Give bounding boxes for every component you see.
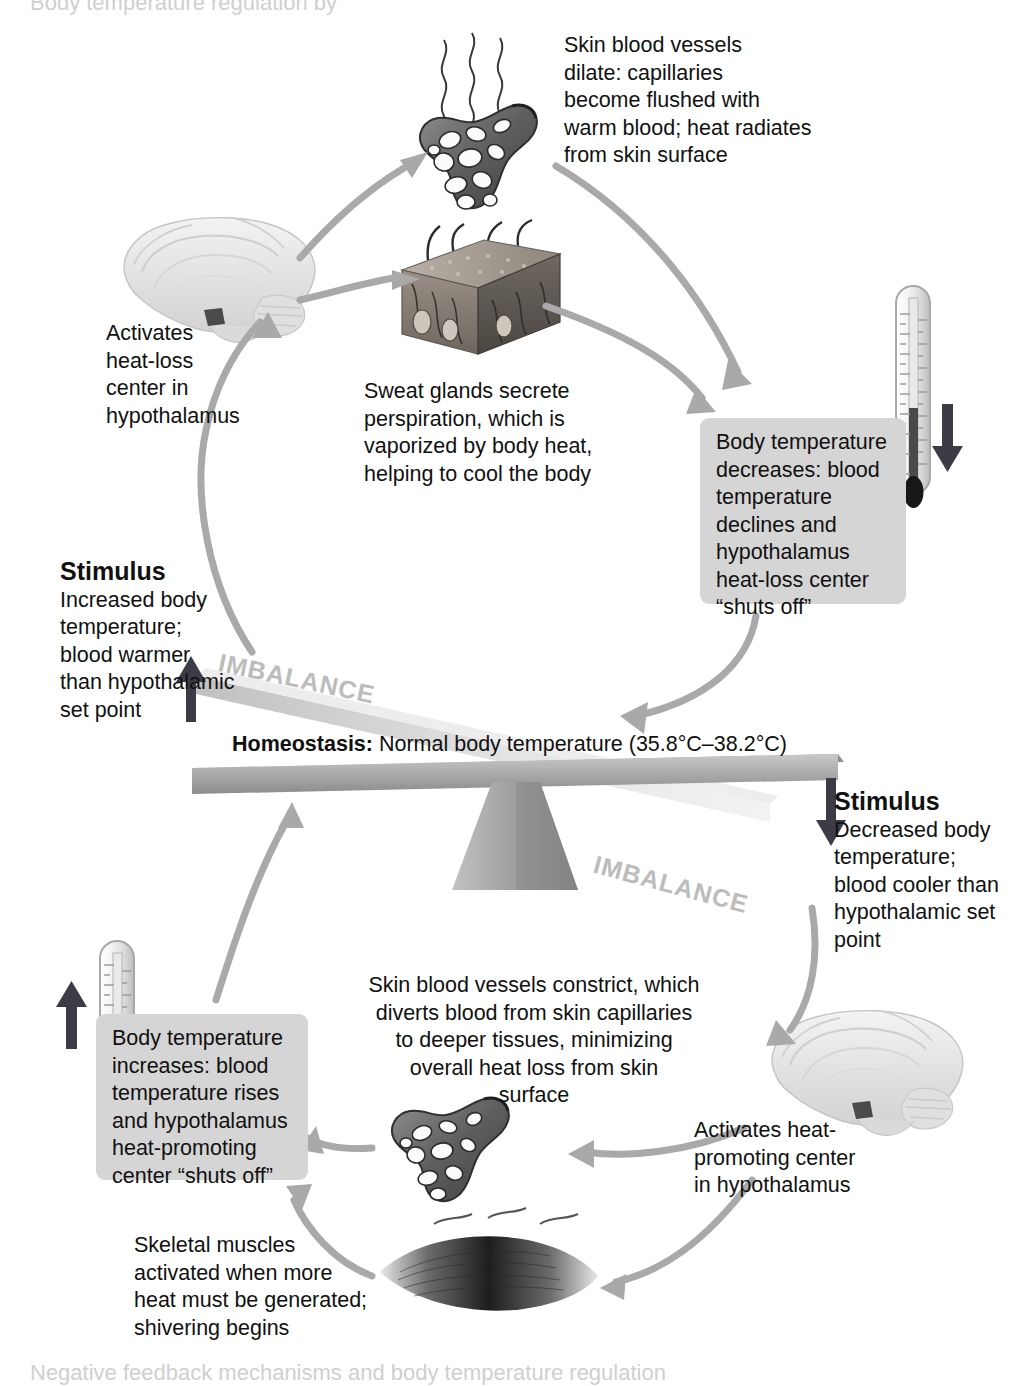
stimulus-increased-body: Increased body temperature; blood warmer… — [60, 588, 235, 722]
caption-sweat-glands: Sweat glands secrete perspiration, which… — [364, 378, 664, 488]
up-arrow-icon — [56, 981, 87, 1049]
bottom-cropped-caption: Negative feedback mechanisms and body te… — [30, 1360, 666, 1386]
stimulus-decreased-body: Decreased body temperature; blood cooler… — [834, 818, 999, 952]
dilated-capillary-bed-illustration — [420, 105, 537, 209]
skin-cross-section-illustration — [402, 220, 560, 354]
homeostasis-title: Homeostasis: — [232, 732, 373, 756]
radiating-heat-wavy-lines — [442, 33, 503, 143]
imbalance-label-right: IMBALANCE — [590, 850, 751, 919]
stimulus-decreased-temperature: StimulusDecreased body temperature; bloo… — [834, 758, 1034, 954]
down-arrow-icon — [932, 404, 963, 472]
stimulus-increased-title: Stimulus — [60, 556, 300, 587]
thermometer-with-down-arrow — [896, 286, 963, 508]
caption-activates-heat-promoting-center: Activates heat- promoting center in hypo… — [694, 1117, 924, 1200]
result-box-temperature-increases-text: Body temperature increases: blood temper… — [112, 1025, 298, 1190]
result-box-temperature-increases: Body temperature increases: blood temper… — [96, 1014, 308, 1180]
constricted-capillary-bed-illustration — [392, 1098, 509, 1201]
caption-activates-heat-loss-center: Activates heat-loss center in hypothalam… — [106, 320, 316, 430]
top-cropped-caption: Body temperature regulation by — [30, 0, 337, 16]
result-box-temperature-decreases-text: Body temperature decreases: blood temper… — [716, 429, 896, 622]
stimulus-increased-temperature: StimulusIncreased body temperature; bloo… — [60, 528, 300, 724]
result-box-temperature-decreases: Body temperature decreases: blood temper… — [700, 418, 906, 604]
caption-skeletal-muscles: Skeletal muscles activated when more hea… — [134, 1232, 424, 1342]
caption-vessel-dilate: Skin blood vessels dilate: capillaries b… — [564, 32, 884, 170]
stimulus-decreased-title: Stimulus — [834, 786, 1034, 817]
caption-vessel-constrict: Skin blood vessels constrict, which dive… — [358, 972, 710, 1110]
homeostasis-value: Normal body temperature (35.8°C–38.2°C) — [373, 732, 787, 756]
homeostasis-label: Homeostasis: Normal body temperature (35… — [232, 731, 787, 759]
